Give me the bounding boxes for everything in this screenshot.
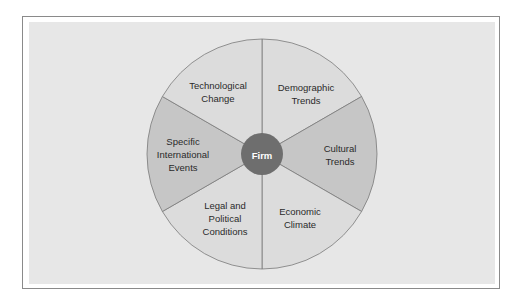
label-line: Events (157, 161, 209, 174)
firm-label: Firm (252, 150, 273, 161)
label-cultural-trends: Cultural Trends (324, 142, 357, 168)
label-line: Conditions (203, 225, 248, 238)
label-line: Cultural (324, 142, 357, 155)
label-line: Demographic (278, 81, 335, 94)
label-economic-climate: Economic Climate (279, 205, 321, 231)
label-legal-political-conditions: Legal and Political Conditions (203, 199, 248, 238)
label-line: Political (203, 212, 248, 225)
label-line: Specific (157, 135, 209, 148)
label-specific-international-events: Specific International Events (157, 135, 209, 174)
label-line: Legal and (203, 199, 248, 212)
label-line: Trends (278, 94, 335, 107)
label-line: Technological (189, 79, 247, 92)
label-line: International (157, 148, 209, 161)
label-line: Economic (279, 205, 321, 218)
label-line: Climate (279, 218, 321, 231)
label-technological-change: Technological Change (189, 79, 247, 105)
label-line: Change (189, 92, 247, 105)
label-demographic-trends: Demographic Trends (278, 81, 335, 107)
label-line: Trends (324, 155, 357, 168)
